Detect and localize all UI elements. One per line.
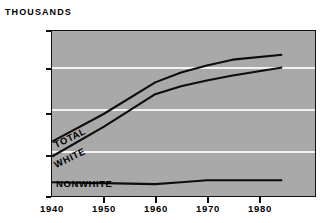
plot-area: TOTAL WHITE NONWHITE [51,30,316,197]
series-line-white [52,68,282,157]
series-lines [52,31,315,196]
x-tick-label-1940: 1940 [40,203,64,214]
series-label-nonwhite: NONWHITE [56,178,113,189]
x-tick-label-1950: 1950 [92,203,116,214]
x-tick-mark-1980 [259,196,261,203]
y-axis-title: THOUSANDS [5,7,72,17]
x-tick-mark-1950 [103,196,105,203]
x-tick-label-1960: 1960 [144,203,168,214]
x-tick-label-1970: 1970 [196,203,220,214]
chart-page: THOUSANDS 200 150 100 50 0 TOTAL WHITE N… [0,0,325,223]
x-tick-mark-1960 [155,196,157,203]
x-tick-label-1980: 1980 [248,203,272,214]
x-tick-mark-1970 [207,196,209,203]
series-line-total [52,55,282,142]
